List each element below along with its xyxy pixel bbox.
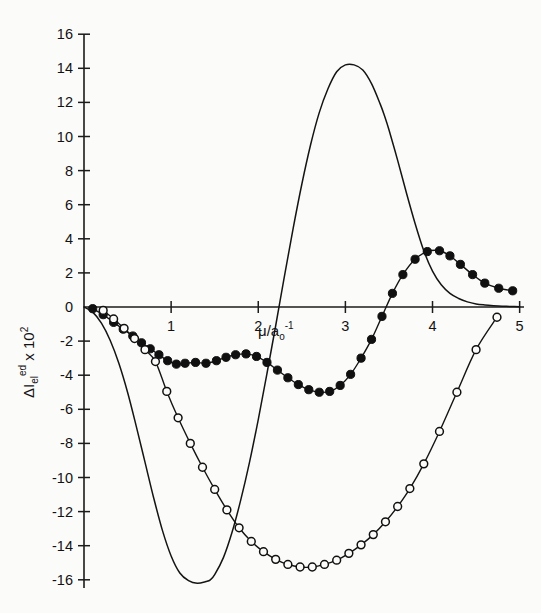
filled-circle-marker xyxy=(411,255,419,263)
filled-circle-marker xyxy=(423,247,431,255)
filled-circle-marker xyxy=(456,260,464,268)
x-axis-title-sup: -1 xyxy=(285,320,294,331)
filled-circle-marker xyxy=(172,360,180,368)
open-circle-marker xyxy=(131,335,139,343)
filled-circle-marker xyxy=(263,358,271,366)
open-circle-marker xyxy=(199,463,207,471)
svg-text:μ/ao-1: μ/ao-1 xyxy=(258,320,294,342)
filled-circle-marker xyxy=(435,247,443,255)
open-circle-marker xyxy=(493,313,501,321)
filled-circle-marker xyxy=(191,358,199,366)
series-line-solid-curve xyxy=(84,64,520,583)
svg-text:ΔIeled x 102: ΔIeled x 102 xyxy=(17,326,40,398)
y-axis-title-exp: 2 xyxy=(19,326,30,332)
filled-circle-marker xyxy=(212,357,220,365)
open-circle-marker xyxy=(163,388,171,396)
open-circle-marker xyxy=(99,307,107,315)
y-tick-label: -14 xyxy=(52,538,73,554)
series-solid-curve xyxy=(84,64,520,583)
open-circle-marker xyxy=(110,315,118,323)
open-circle-marker xyxy=(272,555,280,563)
open-circle-marker xyxy=(186,440,194,448)
filled-circle-marker xyxy=(222,353,230,361)
open-circle-marker xyxy=(406,485,414,493)
series-filled-circle-curve xyxy=(89,247,517,397)
open-circle-marker xyxy=(382,518,390,526)
x-axis-title-sub: o xyxy=(279,331,285,342)
open-circle-marker xyxy=(152,358,160,366)
series-group xyxy=(84,64,520,583)
filled-circle-marker xyxy=(347,370,355,378)
y-axis-title-sub: el xyxy=(29,376,40,384)
filled-circle-marker xyxy=(242,350,250,358)
x-tick-label-group: 12345 xyxy=(167,318,524,334)
x-tick-label: 1 xyxy=(167,318,175,334)
filled-circle-marker xyxy=(252,352,260,360)
filled-circle-marker xyxy=(294,380,302,388)
filled-circle-marker xyxy=(326,387,334,395)
open-circle-marker xyxy=(321,561,329,569)
series-open-circle-curve xyxy=(99,307,501,571)
filled-circle-marker xyxy=(273,366,281,374)
open-circle-marker xyxy=(308,563,316,571)
filled-circle-marker xyxy=(481,279,489,287)
filled-circle-marker xyxy=(367,335,375,343)
open-circle-marker xyxy=(436,428,444,436)
chart-svg: 12345 -16-14-12-10-8-6-4-20246810121416 … xyxy=(0,0,541,613)
y-tick-label: -6 xyxy=(60,401,73,417)
y-axis-title-delta: Δ xyxy=(20,388,37,398)
y-tick-label: 16 xyxy=(57,26,73,42)
x-tick-label: 4 xyxy=(428,318,436,334)
filled-circle-marker xyxy=(164,357,172,365)
y-tick-label: 12 xyxy=(57,94,73,110)
open-circle-marker xyxy=(357,541,365,549)
y-tick-label: -10 xyxy=(52,470,73,486)
y-tick-label: 2 xyxy=(65,265,73,281)
filled-circle-marker xyxy=(357,354,365,362)
y-tick-label: -2 xyxy=(60,333,73,349)
open-circle-marker xyxy=(345,549,353,557)
open-circle-marker xyxy=(284,561,292,569)
open-circle-marker xyxy=(369,531,377,539)
filled-circle-marker xyxy=(232,351,240,359)
filled-circle-marker xyxy=(378,312,386,320)
y-tick-label: -12 xyxy=(52,504,73,520)
y-tick-label: 14 xyxy=(57,60,73,76)
open-circle-marker xyxy=(394,503,402,511)
open-circle-marker xyxy=(235,524,243,532)
filled-circle-marker xyxy=(89,305,97,313)
x-tick-label: 3 xyxy=(341,318,349,334)
open-circle-marker xyxy=(223,506,231,514)
x-axis-title-slash: /a xyxy=(267,322,280,339)
filled-circle-marker xyxy=(446,252,454,260)
figure-container: 12345 -16-14-12-10-8-6-4-20246810121416 … xyxy=(0,0,541,613)
filled-circle-marker xyxy=(399,271,407,279)
y-tick-label-group: -16-14-12-10-8-6-4-20246810121416 xyxy=(52,26,73,588)
y-axis-title: ΔIeled x 102 xyxy=(17,326,40,398)
open-circle-marker xyxy=(296,563,304,571)
y-tick-label: 8 xyxy=(65,163,73,179)
filled-circle-marker xyxy=(468,271,476,279)
open-circle-marker xyxy=(333,556,341,564)
open-circle-marker xyxy=(247,538,255,546)
open-circle-marker xyxy=(174,414,182,422)
filled-circle-marker xyxy=(202,359,210,367)
y-tick-label: 10 xyxy=(57,129,73,145)
y-tick-label: 4 xyxy=(65,231,73,247)
y-tick-label: -8 xyxy=(60,435,73,451)
filled-circle-marker xyxy=(388,289,396,297)
filled-circle-marker xyxy=(181,359,189,367)
y-tick-label: -16 xyxy=(52,572,73,588)
y-tick-label: -4 xyxy=(60,367,73,383)
filled-circle-marker xyxy=(315,388,323,396)
x-axis-title-mu: μ xyxy=(258,322,267,339)
open-circle-marker xyxy=(260,548,268,556)
open-circle-marker xyxy=(472,346,480,354)
filled-circle-marker xyxy=(509,287,517,295)
open-circle-marker xyxy=(211,486,219,494)
x-tick-label: 5 xyxy=(516,318,524,334)
y-tick-label: 0 xyxy=(65,299,73,315)
y-axis-title-times: x 10 xyxy=(20,332,37,365)
filled-circle-marker xyxy=(305,386,313,394)
y-axis-title-sup: ed xyxy=(17,365,28,376)
